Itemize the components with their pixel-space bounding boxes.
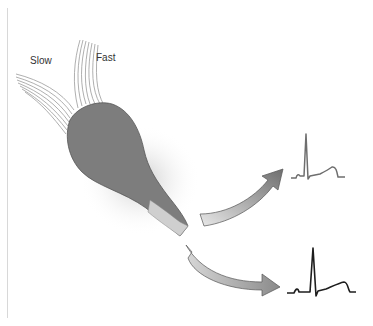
fast-pathway-label: Fast [96,52,115,63]
fast-pathway-fibers [74,40,104,108]
ecg-trace-upper [291,134,345,179]
arrow-lower [186,245,280,296]
slow-pathway-fibers [16,74,74,134]
ecg-trace-lower [287,248,356,296]
arrow-upper [200,169,283,226]
av-node-diagram [0,0,373,326]
slow-pathway-label: Slow [30,55,52,66]
